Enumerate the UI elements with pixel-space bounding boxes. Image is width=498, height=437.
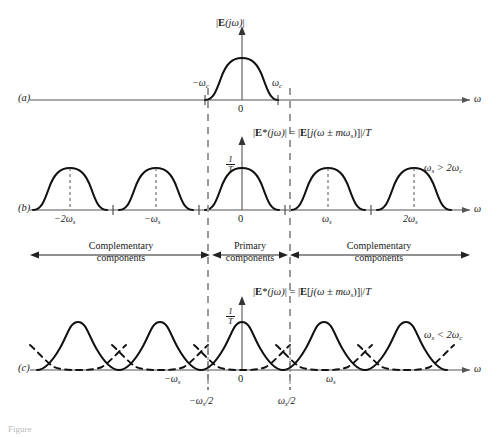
panel-b-eq-lhs-close: | <box>285 127 287 138</box>
panel-a-tick-pos-wc-sub: c <box>279 82 282 89</box>
panel-b-equation: |E*(jω)| = |E[j(ω ± mωs)]|/T <box>253 128 371 140</box>
panel-b-tick-label-minus2ws: −2ωs <box>54 214 75 225</box>
panel-c-tick-p1-text: ω <box>326 373 333 384</box>
panel-c-tick-label-minusws: −ωs <box>164 374 180 385</box>
panel-b-tick-label-minusws: −ωs <box>144 214 160 225</box>
panel-b-peak-den: T <box>226 165 235 174</box>
panel-c-condition: ωs < 2ωc <box>424 330 462 342</box>
panel-c-x-arrowhead <box>462 367 470 373</box>
panel-b-tick-m1-text: −ω <box>144 213 158 224</box>
panel-a-tick-pos-wc-text: ω <box>272 77 279 88</box>
panel-a-origin-label: 0 <box>238 104 243 115</box>
panel-c-tick-m1-text: −ω <box>164 373 178 384</box>
panel-b-eq-rhs-t: T <box>365 127 371 138</box>
panel-a-x-arrowhead <box>462 97 470 103</box>
panel-c-cond-op: < <box>437 329 444 340</box>
band-primary-line2: components <box>226 252 274 263</box>
band-right-line2: components <box>355 252 403 263</box>
panel-b-tick-p1-text: ω <box>322 213 329 224</box>
panel-c-peak-den: T <box>226 317 235 326</box>
panel-c-halftick-pos-tail: /2 <box>288 395 296 406</box>
panel-b-tick-p2-sub: s <box>415 218 418 225</box>
panel-c-eq-equals: = <box>289 286 295 297</box>
panel-c-eq-rhs-t: T <box>365 286 371 297</box>
panel-c-cond-rhs: 2ω <box>447 329 460 340</box>
band-left-line2: components <box>97 252 145 263</box>
panel-c-equation: |E*(jω)| = |E[j(ω ± mωs)]|/T <box>253 287 371 299</box>
figure-caption: Figure <box>8 424 32 434</box>
panel-b-tick-p2-text: 2ω <box>403 213 415 224</box>
panel-b-tick-m1-sub: s <box>158 218 161 225</box>
band-label-primary: Primary components <box>210 240 290 263</box>
panel-c-halftick-pos-text: ω <box>278 395 285 406</box>
panel-c-halftick-neg-text: −ω <box>189 395 203 406</box>
panel-b-eq-lhs-arg: (jω) <box>267 127 284 138</box>
band-label-complementary-left: Complementary components <box>62 240 180 263</box>
panel-a-tag: (a) <box>18 93 30 104</box>
panel-c-group <box>30 296 470 392</box>
panel-c-tick-label-ws: ωs <box>326 374 336 385</box>
panel-c-eq-rhs-paren: (ω ± mω <box>314 286 351 297</box>
panel-b-cond-op: > <box>437 162 444 173</box>
panel-b-tick-m2-sub: s <box>73 218 76 225</box>
panel-b-x-arrowhead <box>462 207 470 213</box>
panel-c-tag: (c) <box>18 363 30 374</box>
panel-b-eq-equals: = <box>289 127 295 138</box>
panel-b-y-arrowhead <box>239 136 246 145</box>
panel-c-eq-lhs-close: | <box>285 286 287 297</box>
panel-c-eq-lhs-arg: (jω) <box>267 286 284 297</box>
band-primary-line1: Primary <box>234 240 266 251</box>
panel-a-magnitude-label: |E(jω)| <box>216 18 245 29</box>
panel-a-tick-label-pos-wc: ωc <box>272 78 282 89</box>
panel-c-cond-lhs-sub: s <box>431 334 434 342</box>
panel-a-tick-label-neg-wc: −ωc <box>192 78 209 89</box>
panel-c-halftick-neg-tail: /2 <box>205 395 213 406</box>
band-arrow-left-head-start <box>30 252 39 259</box>
panel-c-tick-m1-sub: s <box>178 378 181 385</box>
panel-a-tick-neg-wc-sub: c <box>206 82 209 89</box>
panel-a-arg: (jω) <box>225 17 242 28</box>
panel-b-tag: (b) <box>18 203 30 214</box>
panel-c-tick-p1-sub: s <box>333 378 336 385</box>
band-arrow-right-head-start <box>290 252 299 259</box>
panel-b-cond-rhs-sub: c <box>459 167 462 175</box>
band-right-line1: Complementary <box>347 240 411 251</box>
panel-a-mag-close: | <box>242 17 244 28</box>
panel-a-tick-neg-wc-text: −ω <box>192 77 206 88</box>
panel-a-group <box>30 26 470 105</box>
panel-a-axis-label: ω <box>474 94 481 104</box>
panel-c-halftick-label-neg: −ωs/2 <box>189 396 213 407</box>
panel-b-tick-label-ws: ωs <box>322 214 332 225</box>
panel-b-tick-label-2ws: 2ωs <box>403 214 418 225</box>
panel-b-group <box>30 136 470 215</box>
panel-b-tick-m2-text: −2ω <box>54 213 73 224</box>
panel-b-condition: ωs > 2ωc <box>424 163 462 175</box>
panel-b-axis-label: ω <box>474 204 481 214</box>
panel-c-peak-fraction: 1 T <box>226 307 235 327</box>
panel-c-cond-rhs-sub: c <box>459 334 462 342</box>
panel-b-cond-lhs-sub: s <box>431 167 434 175</box>
panel-c-origin-label: 0 <box>238 374 243 385</box>
panel-c-halftick-label-pos: ωs/2 <box>278 396 296 407</box>
panel-b-peak-fraction: 1 T <box>226 155 235 175</box>
band-label-complementary-right: Complementary components <box>320 240 438 263</box>
band-left-line1: Complementary <box>89 240 153 251</box>
panel-c-axis-label: ω <box>474 364 481 374</box>
panel-b-eq-rhs-paren: (ω ± mω <box>314 127 351 138</box>
figure-container: (a) |E(jω)| 0 −ωc ωc ω (b) |E*(jω)| = |E… <box>0 0 498 437</box>
band-arrow-right-head-end <box>461 252 470 259</box>
panel-b-cond-rhs: 2ω <box>447 162 460 173</box>
panel-c-y-arrowhead <box>239 296 246 305</box>
panel-b-tick-p1-sub: s <box>329 218 332 225</box>
panel-b-origin-label: 0 <box>238 214 243 225</box>
